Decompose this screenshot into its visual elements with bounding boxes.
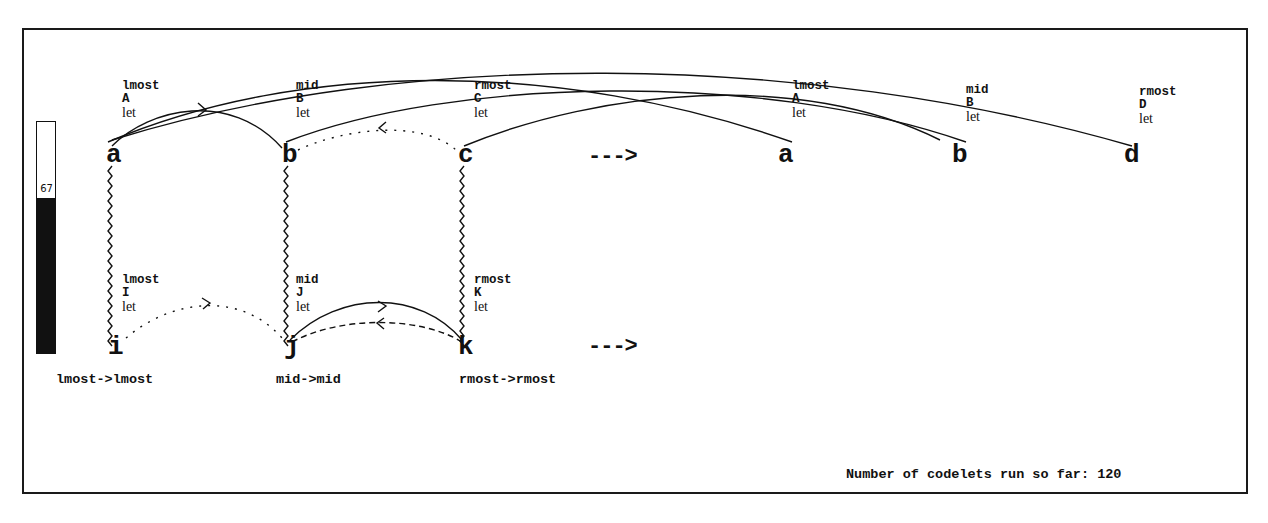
codelet-count-status: Number of codelets run so far: 120 bbox=[846, 467, 1121, 482]
workspace-frame bbox=[22, 28, 1248, 494]
modified-desc-b: mid B let bbox=[966, 84, 989, 123]
modified-letter-d: d bbox=[1124, 142, 1140, 168]
modified-letter-a: a bbox=[778, 142, 794, 168]
codelet-count-label: Number of codelets run so far: bbox=[846, 467, 1089, 482]
temperature-fill bbox=[37, 198, 55, 353]
correspondence-label-rmost: rmost->rmost bbox=[459, 372, 556, 387]
target-letter-i: i bbox=[108, 334, 124, 360]
modified-desc-d: rmost D let bbox=[1139, 86, 1177, 125]
bottom-transform-arrow: ---> bbox=[588, 334, 637, 359]
initial-desc-a: lmost A let bbox=[122, 80, 160, 119]
correspondence-label-lmost: lmost->lmost bbox=[56, 372, 153, 387]
initial-desc-b: mid B let bbox=[296, 80, 319, 119]
initial-letter-a: a bbox=[106, 142, 122, 168]
initial-desc-c: rmost C let bbox=[474, 80, 512, 119]
target-letter-k: k bbox=[458, 334, 474, 360]
target-desc-i: lmost I let bbox=[122, 274, 160, 313]
initial-letter-c: c bbox=[458, 142, 474, 168]
modified-desc-a: lmost A let bbox=[792, 80, 830, 119]
correspondence-label-mid: mid->mid bbox=[276, 372, 341, 387]
temperature-value: 67 bbox=[38, 183, 55, 195]
temperature-gauge: 67 bbox=[36, 121, 56, 354]
top-transform-arrow: ---> bbox=[588, 144, 637, 169]
initial-letter-b: b bbox=[282, 142, 298, 168]
codelet-count-value: 120 bbox=[1097, 467, 1121, 482]
target-desc-j: mid J let bbox=[296, 274, 319, 313]
target-letter-j: j bbox=[284, 334, 300, 360]
target-desc-k: rmost K let bbox=[474, 274, 512, 313]
modified-letter-b: b bbox=[952, 142, 968, 168]
